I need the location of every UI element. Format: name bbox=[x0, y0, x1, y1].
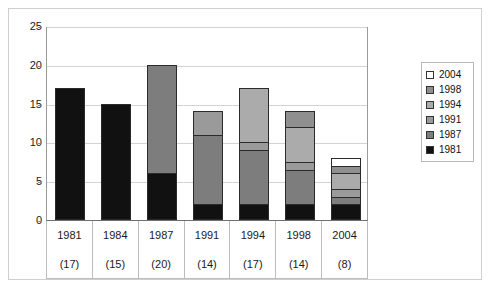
y-axis: 0510152025 bbox=[8, 0, 42, 289]
bars-layer bbox=[47, 28, 367, 220]
bar-segment-1981 bbox=[193, 204, 223, 220]
y-tick-mark bbox=[38, 221, 42, 222]
x-axis-year-label: 1984 bbox=[93, 221, 138, 250]
bar-segment-1981 bbox=[147, 173, 177, 220]
chart-figure: 0510152025 1981(17)1984(15)1987(20)1991(… bbox=[0, 0, 490, 289]
x-axis-column: 2004(8) bbox=[322, 221, 367, 278]
bar-segment-1981 bbox=[55, 88, 85, 220]
bar-segment-1991 bbox=[193, 111, 223, 134]
x-axis-total-label: (17) bbox=[230, 250, 275, 279]
bar-1994[interactable] bbox=[239, 88, 269, 220]
bar-1998[interactable] bbox=[285, 111, 315, 220]
x-axis-total-label: (14) bbox=[276, 250, 321, 279]
y-tick-mark bbox=[38, 105, 42, 106]
bar-1981[interactable] bbox=[55, 88, 85, 220]
legend-swatch-icon bbox=[426, 131, 434, 139]
plot-area bbox=[46, 27, 368, 221]
x-axis-total-label: (20) bbox=[139, 250, 184, 279]
bar-segment-1991 bbox=[239, 142, 269, 150]
bar-segment-1987 bbox=[285, 170, 315, 205]
bar-segment-1998 bbox=[331, 166, 361, 174]
legend-label: 2004 bbox=[439, 70, 461, 80]
x-axis-column: 1991(14) bbox=[185, 221, 231, 278]
legend: 200419981994199119871981 bbox=[421, 62, 474, 162]
bar-segment-1994 bbox=[239, 88, 269, 142]
legend-item[interactable]: 2004 bbox=[426, 67, 470, 82]
bar-1987[interactable] bbox=[147, 65, 177, 220]
bar-segment-1981 bbox=[285, 204, 315, 220]
bar-segment-1998 bbox=[285, 111, 315, 127]
bar-segment-1981 bbox=[101, 104, 131, 220]
bar-1984[interactable] bbox=[101, 104, 131, 220]
x-axis-year-label: 2004 bbox=[322, 221, 367, 250]
x-axis-year-label: 1998 bbox=[276, 221, 321, 250]
x-axis-year-label: 1987 bbox=[139, 221, 184, 250]
x-axis-total-label: (17) bbox=[47, 250, 92, 279]
legend-label: 1987 bbox=[439, 130, 461, 140]
bar-2004[interactable] bbox=[331, 158, 361, 220]
legend-swatch-icon bbox=[426, 101, 434, 109]
y-tick-mark bbox=[38, 182, 42, 183]
y-tick-mark bbox=[38, 143, 42, 144]
legend-item[interactable]: 1981 bbox=[426, 142, 470, 157]
legend-item[interactable]: 1991 bbox=[426, 112, 470, 127]
x-axis-total-label: (15) bbox=[93, 250, 138, 279]
x-axis-year-label: 1991 bbox=[185, 221, 230, 250]
legend-label: 1998 bbox=[439, 85, 461, 95]
x-axis-total-label: (8) bbox=[322, 250, 367, 279]
x-axis-column: 1984(15) bbox=[93, 221, 139, 278]
x-axis-labels: 1981(17)1984(15)1987(20)1991(14)1994(17)… bbox=[46, 221, 368, 279]
legend-label: 1981 bbox=[439, 145, 461, 155]
x-axis-column: 1998(14) bbox=[276, 221, 322, 278]
y-tick-mark bbox=[38, 27, 42, 28]
bar-segment-1991 bbox=[285, 162, 315, 170]
x-axis-total-label: (14) bbox=[185, 250, 230, 279]
top-edge-artifact bbox=[243, 1, 253, 5]
x-axis-year-label: 1994 bbox=[230, 221, 275, 250]
x-axis-column: 1994(17) bbox=[230, 221, 276, 278]
x-axis-column: 1981(17) bbox=[47, 221, 93, 278]
bar-segment-1991 bbox=[331, 189, 361, 197]
bar-segment-1994 bbox=[331, 173, 361, 189]
legend-label: 1991 bbox=[439, 115, 461, 125]
legend-item[interactable]: 1998 bbox=[426, 82, 470, 97]
legend-item[interactable]: 1987 bbox=[426, 127, 470, 142]
x-axis-year-label: 1981 bbox=[47, 221, 92, 250]
bar-segment-1987 bbox=[239, 150, 269, 204]
bar-segment-1987 bbox=[193, 135, 223, 205]
legend-swatch-icon bbox=[426, 116, 434, 124]
bar-segment-1981 bbox=[239, 204, 269, 220]
bar-1991[interactable] bbox=[193, 111, 223, 220]
x-axis-column: 1987(20) bbox=[139, 221, 185, 278]
bar-segment-2004 bbox=[331, 158, 361, 166]
legend-item[interactable]: 1994 bbox=[426, 97, 470, 112]
bar-segment-1981 bbox=[331, 204, 361, 220]
legend-label: 1994 bbox=[439, 100, 461, 110]
y-tick-mark bbox=[38, 66, 42, 67]
legend-swatch-icon bbox=[426, 71, 434, 79]
bar-segment-1987 bbox=[331, 197, 361, 205]
legend-swatch-icon bbox=[426, 86, 434, 94]
bar-segment-1987 bbox=[147, 65, 177, 174]
legend-swatch-icon bbox=[426, 146, 434, 154]
bar-segment-1994 bbox=[285, 127, 315, 162]
